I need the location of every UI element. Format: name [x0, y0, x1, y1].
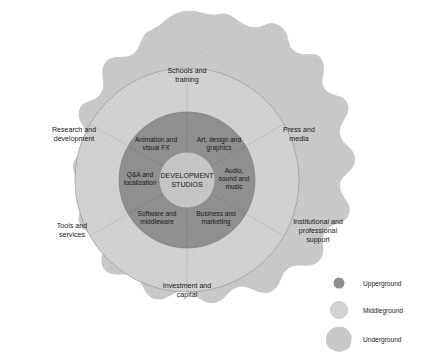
segment-label-line2: training [175, 76, 198, 84]
segment-label-line1: Animation and [135, 136, 177, 143]
segment-label-line2: middleware [140, 218, 174, 225]
segment-label-line2: marketing [202, 218, 231, 226]
segment-label-line2: capital [177, 291, 198, 299]
legend: Upperground Middleground Underground [326, 278, 403, 352]
segment-label-line1: Art, design and [197, 136, 242, 144]
segment-tools-services[interactable]: Tools and services [57, 222, 87, 239]
segment-research-development[interactable]: Research and development [52, 126, 96, 143]
core-label-line1: DEVELOPMENT [161, 172, 215, 179]
legend-label-upperground: Upperground [363, 280, 402, 288]
core-label-line2: STUDIOS [171, 181, 202, 188]
legend-swatch-underground [326, 327, 352, 352]
core-circle [159, 152, 215, 208]
segment-label-line1: Institutional and [293, 218, 343, 226]
legend-item-middleground[interactable]: Middleground [331, 302, 404, 319]
segment-label-line2: visual FX [142, 144, 170, 151]
segment-label-line1: Q&A and [127, 171, 154, 179]
segment-label-line1: Business and [196, 210, 236, 217]
segment-label-line3: support [306, 236, 330, 244]
diagram-canvas: DEVELOPMENT STUDIOS Animation and visual… [0, 0, 427, 361]
segment-label-line3: music [225, 183, 243, 190]
legend-swatch-middleground [331, 302, 348, 319]
segment-label-line1: Schools and [167, 67, 206, 75]
segment-label-line2: services [59, 231, 85, 239]
legend-item-upperground[interactable]: Upperground [334, 278, 402, 289]
segment-business-marketing[interactable]: Business and marketing [196, 210, 236, 226]
segment-label-line2: media [289, 135, 308, 143]
segment-qa-localization[interactable]: Q&A and localization [124, 171, 157, 186]
legend-label-middleground: Middleground [363, 307, 403, 315]
segment-label-line1: Research and [52, 126, 96, 134]
legend-swatch-upperground [334, 278, 345, 289]
segment-label-line2: graphics [207, 144, 233, 152]
segment-label-line2: development [54, 135, 95, 143]
ecosystem-diagram: DEVELOPMENT STUDIOS Animation and visual… [0, 0, 427, 361]
segment-label-line1: Tools and [57, 222, 87, 230]
segment-label-line1: Software and [138, 210, 177, 217]
segment-label-line1: Press and [283, 126, 315, 134]
legend-label-underground: Underground [363, 336, 402, 344]
segment-software-middleware[interactable]: Software and middleware [138, 210, 177, 225]
segment-label-line2: professional [299, 227, 338, 235]
legend-item-underground[interactable]: Underground [326, 327, 402, 352]
segment-label-line2: localization [124, 179, 157, 186]
segment-label-line1: Investment and [163, 282, 212, 290]
segment-label-line2: sound and [219, 175, 250, 182]
segment-label-line1: Audio, [225, 167, 244, 174]
